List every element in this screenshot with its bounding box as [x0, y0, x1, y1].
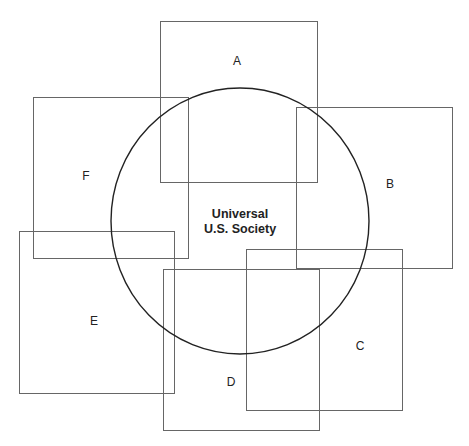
box-c [247, 250, 403, 411]
society-overlap-diagram: ABCDEF Universal U.S. Society [0, 0, 469, 446]
box-label-d: D [227, 375, 236, 389]
box-e [20, 232, 175, 394]
universal-society-circle [111, 88, 369, 354]
center-label-line1: Universal [212, 207, 268, 221]
box-label-a: A [233, 54, 241, 68]
box-d [164, 270, 320, 431]
box-label-b: B [386, 177, 394, 191]
box-a [161, 22, 318, 183]
box-label-f: F [82, 169, 89, 183]
center-label-line2: U.S. Society [204, 222, 276, 236]
box-label-c: C [356, 339, 365, 353]
box-b [297, 108, 453, 269]
box-label-e: E [90, 314, 98, 328]
